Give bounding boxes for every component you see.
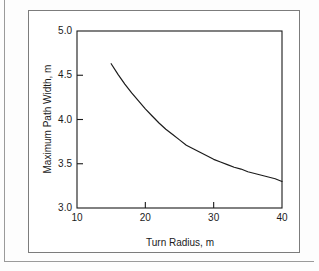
plot-frame bbox=[77, 31, 282, 208]
x-tick-label: 40 bbox=[276, 213, 287, 223]
figure-root: 3.03.54.04.55.010203040 Turn Radius, m M… bbox=[0, 0, 319, 271]
y-tick-label: 5.0 bbox=[40, 26, 72, 36]
chart-plot-area: 3.03.54.04.55.010203040 Turn Radius, m M… bbox=[0, 0, 319, 271]
data-series-line bbox=[111, 64, 282, 182]
x-tick-label: 10 bbox=[71, 213, 82, 223]
x-tick-label: 20 bbox=[140, 213, 151, 223]
x-axis-ticks bbox=[145, 202, 213, 208]
x-axis-title: Turn Radius, m bbox=[146, 237, 214, 248]
y-axis-ticks bbox=[77, 75, 83, 164]
x-tick-label: 30 bbox=[208, 213, 219, 223]
y-tick-label: 3.0 bbox=[40, 203, 72, 213]
y-axis-title: Maximum Path Width, m bbox=[42, 65, 53, 174]
